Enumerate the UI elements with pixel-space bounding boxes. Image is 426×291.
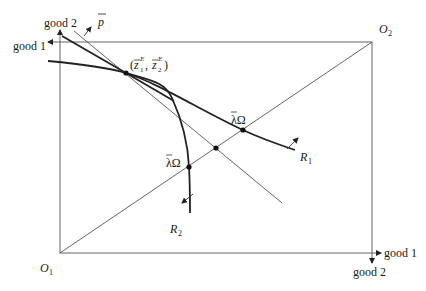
origin-o1-label: O 1	[40, 261, 53, 277]
lambda-omega-r1-dot	[240, 127, 245, 132]
svg-text:2: 2	[178, 229, 182, 238]
price-line	[74, 31, 282, 203]
price-pointer	[84, 27, 91, 36]
r1-curve	[48, 61, 295, 150]
r2-label: R 2	[169, 222, 182, 238]
svg-text:λΩ: λΩ	[166, 156, 181, 170]
r1-direction-arrow	[287, 138, 298, 149]
lambda-omega-upper-label: λΩ	[231, 112, 246, 127]
svg-text:2: 2	[158, 66, 162, 74]
r2-direction-arrow	[182, 194, 193, 203]
equilibrium-dot	[123, 70, 128, 75]
price-label: p	[97, 14, 106, 29]
r1-label: R 1	[299, 150, 312, 166]
svg-text:p: p	[97, 15, 104, 29]
svg-text:2: 2	[388, 29, 392, 38]
origin-o2-label: O 2	[379, 22, 392, 38]
svg-text:1: 1	[49, 268, 53, 277]
r2-curve	[126, 73, 190, 213]
equilibrium-label: ( z E 1 , z E 2 )	[130, 55, 168, 74]
svg-text:): )	[164, 58, 168, 72]
svg-text:1: 1	[308, 157, 312, 166]
good2-label-bottom: good 2	[353, 265, 386, 279]
good2-label-top: good 2	[44, 16, 77, 30]
diagonal-price-intersection-dot	[213, 145, 218, 150]
good1-label-right: good 1	[384, 246, 417, 260]
svg-text:1: 1	[140, 66, 144, 74]
lambda-omega-lower-label: λΩ	[166, 155, 181, 170]
svg-text:O: O	[40, 261, 49, 275]
good1-label-left: good 1	[13, 39, 46, 53]
svg-text:λΩ: λΩ	[231, 113, 246, 127]
svg-text:R: R	[299, 150, 308, 164]
svg-text:E: E	[157, 55, 163, 63]
edgeworth-box-diagram: good 2 good 1 p ( z E 1 , z E 2 ) λΩ λΩ …	[0, 0, 426, 291]
lambda-omega-r2-dot	[186, 164, 191, 169]
svg-text:R: R	[169, 222, 178, 236]
svg-text:O: O	[379, 22, 388, 36]
svg-text:,: ,	[145, 58, 148, 72]
